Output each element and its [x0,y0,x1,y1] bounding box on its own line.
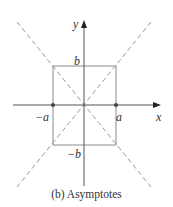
vertex-dot-pos-a [114,103,118,107]
y-axis-arrow-icon [81,20,87,28]
label-neg-b: −b [67,148,81,160]
diagram-canvas [0,0,173,207]
vertex-dot-neg-a [51,103,55,107]
asymptotes-diagram: y x b −b −a a (b) Asymptotes [0,0,173,207]
x-axis-label: x [156,111,161,123]
label-neg-a: −a [35,111,49,123]
label-pos-b: b [74,55,80,67]
x-axis-arrow-icon [153,102,161,108]
label-pos-a: a [116,111,122,123]
figure-caption: (b) Asymptotes [0,189,173,201]
y-axis-label: y [73,18,78,30]
